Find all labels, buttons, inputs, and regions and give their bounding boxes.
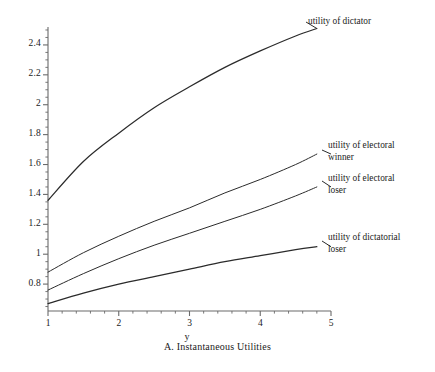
y-tick-label: 2.2 xyxy=(29,68,41,78)
x-tick-label: 4 xyxy=(240,318,280,328)
chart-series-group xyxy=(48,28,317,303)
series-line-3 xyxy=(48,247,317,304)
y-tick-label: 1.6 xyxy=(29,158,41,168)
annotation-leader-lines xyxy=(306,22,331,247)
figure-caption: A. Instantaneous Utilities xyxy=(0,341,435,352)
x-axis-ticks xyxy=(48,311,331,316)
x-tick-label: 5 xyxy=(311,318,351,328)
y-tick-label: 0.8 xyxy=(29,278,41,288)
series-label-dictatorial-loser-line1: utility of dictatorial xyxy=(328,232,400,244)
x-tick-label: 3 xyxy=(170,318,210,328)
y-tick-label: 2 xyxy=(36,98,41,108)
series-label-dictatorial-loser: utility of dictatorial loser xyxy=(328,232,400,255)
chart-figure: 0.811.21.41.61.822.22.4 12345 y utility … xyxy=(0,0,435,372)
series-label-electoral-loser: utility of electoral loser xyxy=(328,173,395,196)
series-line-0 xyxy=(48,28,317,200)
y-axis-ticks xyxy=(43,30,48,307)
x-tick-label: 1 xyxy=(28,318,68,328)
series-label-electoral-loser-line1: utility of electoral xyxy=(328,173,395,185)
series-label-dictator: utility of dictator xyxy=(308,16,371,28)
series-line-2 xyxy=(48,187,317,290)
series-label-electoral-winner-line2: winner xyxy=(328,152,395,164)
series-label-dictatorial-loser-line2: loser xyxy=(328,244,400,256)
y-tick-label: 1.4 xyxy=(29,188,41,198)
y-tick-label: 1.2 xyxy=(29,218,41,228)
series-label-electoral-loser-line2: loser xyxy=(328,185,395,197)
series-label-electoral-winner-line1: utility of electoral xyxy=(328,140,395,152)
x-tick-label: 2 xyxy=(99,318,139,328)
y-tick-label: 2.4 xyxy=(29,38,41,48)
y-tick-label: 1.8 xyxy=(29,128,41,138)
series-line-1 xyxy=(48,154,317,272)
series-label-dictator-line1: utility of dictator xyxy=(308,16,371,28)
series-label-electoral-winner: utility of electoral winner xyxy=(328,140,395,163)
y-tick-label: 1 xyxy=(36,248,41,258)
